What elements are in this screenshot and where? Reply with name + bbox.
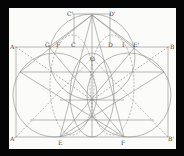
label-a-prime: A' <box>9 135 16 142</box>
label-b: B <box>170 43 175 50</box>
label-c: C <box>71 41 76 48</box>
label-d: D <box>108 41 113 48</box>
label-e: E <box>58 139 62 146</box>
label-c-prime: C' <box>67 10 74 17</box>
label-d-prime: D' <box>109 10 116 17</box>
image-frame: C' D' A G F C D I E' B O A' E F B' <box>0 0 184 156</box>
label-b-prime: B' <box>168 135 174 142</box>
label-f-top: F <box>56 41 60 48</box>
label-f-bottom: F <box>121 139 125 146</box>
geometric-diagram: C' D' A G F C D I E' B O A' E F B' <box>0 0 184 156</box>
label-o: O <box>90 55 95 62</box>
label-a: A <box>9 43 15 50</box>
label-g: G <box>45 41 50 48</box>
label-e-prime: E' <box>133 41 139 48</box>
